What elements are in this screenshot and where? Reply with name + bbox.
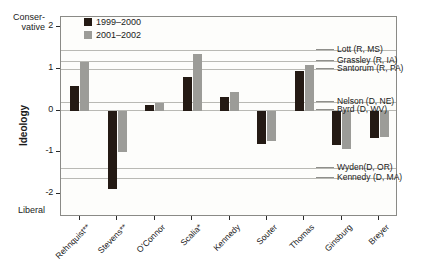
- bar: [108, 111, 117, 189]
- reference-line-label: Santorum (R, PA): [337, 63, 403, 73]
- legend-label: 2001–2002: [96, 30, 141, 40]
- y-tick-label: 0: [48, 104, 53, 114]
- x-tick-mark: [229, 216, 230, 220]
- x-tick-mark: [79, 216, 80, 220]
- reference-line-label: Byrd (D, WV): [337, 104, 387, 114]
- reference-line-leader: [316, 68, 334, 69]
- axis-high-label-line2: vative: [21, 22, 45, 32]
- legend-swatch-icon: [84, 31, 92, 39]
- reference-line-label: Lott (R, MS): [337, 44, 383, 54]
- bar: [183, 77, 192, 110]
- x-tick-mark: [378, 216, 379, 220]
- x-tick-mark: [303, 216, 304, 220]
- reference-line-label: Kennedy (D, MA): [337, 172, 402, 182]
- y-tick-label: 2: [48, 20, 53, 30]
- legend-item: 1999–2000: [84, 16, 141, 28]
- reference-line-leader: [316, 109, 334, 110]
- axis-low-label: Liberal: [0, 205, 45, 215]
- bar: [70, 86, 79, 111]
- bar: [230, 92, 239, 111]
- ideology-bar-chart: Conser- vative Liberal Ideology 210-1-2 …: [0, 0, 427, 277]
- bar: [80, 62, 89, 111]
- x-tick-mark: [341, 216, 342, 220]
- bar: [342, 111, 351, 149]
- bar: [267, 111, 276, 141]
- bar: [155, 103, 164, 111]
- y-tick-label: -2: [45, 187, 53, 197]
- bar: [118, 111, 127, 153]
- axis-high-label-line1: Conser-: [13, 12, 45, 22]
- y-tick-label: 1: [48, 62, 53, 72]
- reference-line-leader: [316, 60, 334, 61]
- bar: [370, 111, 379, 138]
- bar: [257, 111, 266, 144]
- bar: [220, 97, 229, 111]
- reference-line-leader: [316, 167, 334, 168]
- x-tick-mark: [191, 216, 192, 220]
- y-axis-title: Ideology: [18, 91, 29, 161]
- reference-line-label: Wyden(D, OR): [337, 162, 393, 172]
- x-tick-mark: [266, 216, 267, 220]
- bar: [305, 65, 314, 111]
- bar: [193, 54, 202, 111]
- legend-item: 2001–2002: [84, 29, 141, 41]
- reference-line-leader: [316, 177, 334, 178]
- reference-line-leader: [316, 101, 334, 102]
- bar: [380, 111, 389, 137]
- y-axis: Conser- vative Liberal Ideology 210-1-2: [0, 0, 60, 232]
- y-tick-label: -1: [45, 145, 53, 155]
- x-tick-mark: [154, 216, 155, 220]
- legend-swatch-icon: [84, 18, 92, 26]
- reference-line-leader: [316, 49, 334, 50]
- axis-high-label: Conser- vative: [0, 12, 45, 32]
- legend-label: 1999–2000: [96, 17, 141, 27]
- x-tick-mark: [116, 216, 117, 220]
- bar: [332, 111, 341, 145]
- legend: 1999–20002001–2002: [84, 16, 141, 42]
- bar: [295, 71, 304, 111]
- bar: [145, 105, 154, 111]
